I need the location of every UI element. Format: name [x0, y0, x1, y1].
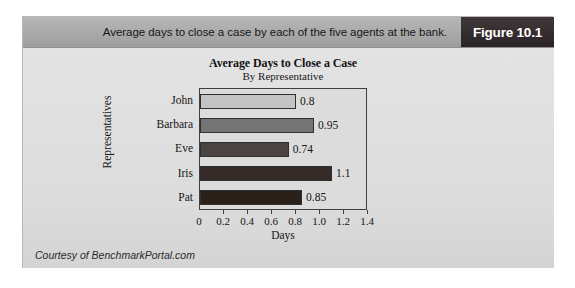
bar-value-label: 0.74: [289, 142, 313, 157]
bar-row: 0.85: [200, 190, 366, 205]
credit-line: Courtesy of BenchmarkPortal.com: [35, 249, 195, 261]
x-axis-tick-label: 0: [196, 215, 202, 227]
y-axis-title: Representatives: [101, 72, 113, 192]
x-axis-tick-label: 1.4: [360, 215, 374, 227]
y-axis-tick-label: Barbara: [131, 118, 193, 131]
bar-value-label: 1.1: [332, 166, 350, 181]
figure-caption: Average days to close a case by each of …: [23, 17, 461, 47]
bar-chart: Average Days to Close a Case By Represen…: [133, 56, 433, 236]
chart-title: Average Days to Close a Case: [133, 56, 433, 70]
bar: [200, 166, 332, 181]
figure-container: Average days to close a case by each of …: [22, 16, 553, 268]
figure-body-panel: Average Days to Close a Case By Represen…: [23, 48, 554, 268]
x-axis-tick-label: 0.2: [216, 215, 230, 227]
bar: [200, 118, 314, 133]
x-axis-tick-label: 1.2: [336, 215, 350, 227]
bar-value-label: 0.95: [314, 118, 338, 133]
bar: [200, 190, 302, 205]
y-axis-tick-label: John: [131, 94, 193, 107]
x-axis-tick: [271, 210, 272, 214]
x-axis-tick-label: 1.0: [312, 215, 326, 227]
figure-number-badge: Figure 10.1: [461, 17, 554, 47]
bar-series: 0.80.950.741.10.85: [200, 89, 366, 209]
plot-frame: 0.80.950.741.10.85: [199, 88, 367, 210]
x-axis-tick: [223, 210, 224, 214]
figure-header-bar: Average days to close a case by each of …: [23, 17, 554, 48]
y-axis-tick-label: Pat: [131, 191, 193, 204]
x-axis-tick: [343, 210, 344, 214]
x-axis-tick-label: 0.8: [288, 215, 302, 227]
bar-row: 0.95: [200, 118, 366, 133]
x-axis-tick: [367, 210, 368, 214]
x-axis-tick: [247, 210, 248, 214]
y-axis-tick-labels: John Barbara Eve Iris Pat: [131, 88, 193, 210]
bar-row: 1.1: [200, 166, 366, 181]
x-axis-tick: [319, 210, 320, 214]
x-axis-tick-label: 0.6: [264, 215, 278, 227]
bar-row: 0.74: [200, 142, 366, 157]
x-axis-tick: [295, 210, 296, 214]
bar-value-label: 0.8: [296, 94, 314, 109]
x-axis-title: Days: [199, 229, 367, 241]
bar-value-label: 0.85: [302, 190, 326, 205]
x-axis: Days 00.20.40.60.81.01.21.4: [199, 210, 367, 240]
x-axis-tick-label: 0.4: [240, 215, 254, 227]
plot-area: Representatives John Barbara Eve Iris Pa…: [133, 88, 433, 236]
bar: [200, 94, 296, 109]
bar-row: 0.8: [200, 94, 366, 109]
y-axis-tick-label: Eve: [131, 142, 193, 155]
chart-subtitle: By Representative: [133, 70, 433, 83]
y-axis-tick-label: Iris: [131, 167, 193, 180]
bar: [200, 142, 289, 157]
